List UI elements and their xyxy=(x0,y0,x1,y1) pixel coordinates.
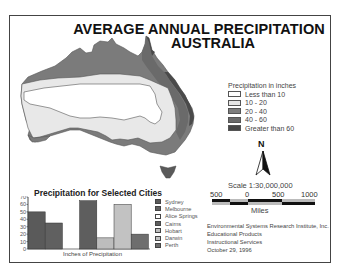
legend-label: 20 - 40 xyxy=(245,108,267,115)
bar-melbourne xyxy=(45,223,62,249)
legend-item: Greater than 60 xyxy=(228,124,296,133)
chart-legend-label: Perth xyxy=(165,242,178,248)
chart-legend-label: Alice Springs xyxy=(165,213,198,219)
chart-legend-item: Hobart xyxy=(155,227,198,234)
chart-legend-swatch xyxy=(155,243,161,248)
y-tick-label: 40 xyxy=(20,216,26,222)
precipitation-legend: Precipitation in inches Less than 10 10 … xyxy=(228,82,296,133)
credit-date: October 29, 1996 xyxy=(207,246,329,254)
y-tick-label: 50 xyxy=(20,209,26,215)
chart-legend-item: Darwin xyxy=(155,234,198,241)
chart-legend-swatch xyxy=(155,199,161,204)
legend-label: Greater than 60 xyxy=(245,125,294,132)
chart-legend-swatch xyxy=(155,236,161,241)
chart-legend-label: Cairns xyxy=(165,221,181,227)
legend-label: Less than 10 xyxy=(245,91,285,98)
y-tick-label: 10 xyxy=(20,239,26,245)
chart-legend-item: Alice Springs xyxy=(155,213,198,220)
legend-swatch xyxy=(228,108,241,114)
chart-legend: Sydney Melbourne Alice Springs Cairns Ho… xyxy=(155,198,198,249)
north-arrow: N xyxy=(253,139,277,179)
scale-tick: 500 xyxy=(210,190,223,199)
chart-x-axis-label: Inches of Precipitation xyxy=(63,251,122,257)
chart-legend-label: Darwin xyxy=(165,235,182,241)
legend-item: 20 - 40 xyxy=(228,107,296,116)
bar-sydney xyxy=(28,212,45,249)
legend-swatch xyxy=(228,100,241,106)
bar-darwin xyxy=(114,204,131,249)
chart-legend-label: Hobart xyxy=(165,228,182,234)
y-tick-label: 20 xyxy=(20,231,26,237)
chart-legend-label: Melbourne xyxy=(165,206,191,212)
chart-legend-item: Cairns xyxy=(155,220,198,227)
y-tick-label: 70 xyxy=(20,196,26,200)
bar-hobart xyxy=(97,238,114,249)
scale-title: Scale 1:30,000,000 xyxy=(228,181,293,190)
chart-legend-swatch xyxy=(155,221,161,226)
credit-organization: Environmental Systems Research Institute… xyxy=(207,222,329,230)
north-arrow-icon xyxy=(253,139,277,179)
tasmania xyxy=(160,166,176,178)
legend-label: 40 - 60 xyxy=(245,116,267,123)
bar-cairns xyxy=(80,201,97,249)
scale-tick: 500 xyxy=(272,190,285,199)
credits: Environmental Systems Research Institute… xyxy=(207,222,329,254)
credit-line: Instructional Services xyxy=(207,238,329,246)
legend-label: 10 - 20 xyxy=(245,99,267,106)
chart-legend-label: Sydney xyxy=(165,199,184,205)
chart-legend-item: Perth xyxy=(155,242,198,249)
chart-legend-swatch xyxy=(155,214,161,219)
legend-item: Less than 10 xyxy=(228,90,296,99)
scale-tick: 1000 xyxy=(301,190,318,199)
scale-bar xyxy=(212,199,315,205)
legend-item: 10 - 20 xyxy=(228,99,296,108)
chart-legend-item: Sydney xyxy=(155,198,198,205)
scale-unit: Miles xyxy=(251,206,269,215)
scale-tick: 0 xyxy=(245,190,249,199)
chart-legend-item: Melbourne xyxy=(155,205,198,212)
precipitation-bar-chart: 010203040506070 xyxy=(10,196,155,254)
bar-perth xyxy=(131,234,148,249)
credit-line: Educational Products xyxy=(207,230,329,238)
legend-item: 40 - 60 xyxy=(228,116,296,125)
chart-legend-swatch xyxy=(155,206,161,211)
legend-title: Precipitation in inches xyxy=(228,82,296,89)
y-tick-label: 30 xyxy=(20,224,26,230)
y-tick-label: 60 xyxy=(20,201,26,207)
chart-legend-swatch xyxy=(155,228,161,233)
y-tick-label: 0 xyxy=(23,246,26,252)
legend-swatch xyxy=(228,117,241,123)
legend-swatch xyxy=(228,91,241,97)
legend-swatch xyxy=(228,125,241,131)
